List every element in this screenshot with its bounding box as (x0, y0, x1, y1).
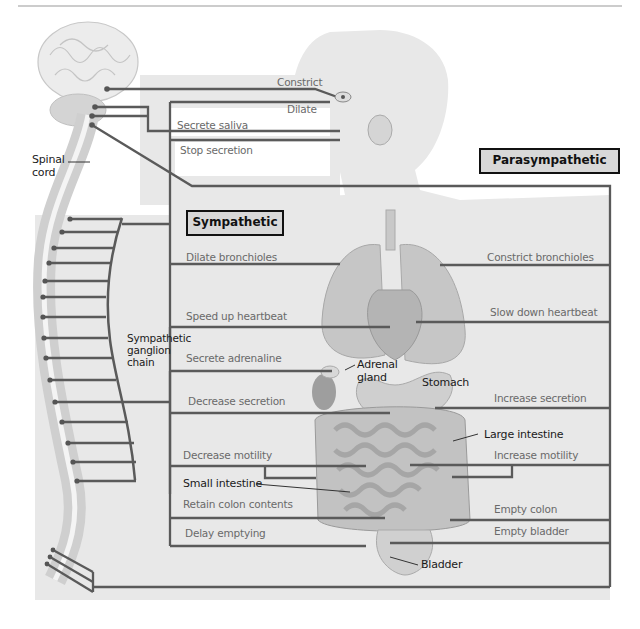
salivary-gland-illustration (368, 115, 392, 145)
effect-secrete-adrenaline: Secrete adrenaline (186, 352, 281, 364)
effect-constrict: Constrict (277, 76, 322, 88)
effect-dilate: Dilate (287, 103, 317, 115)
effect-dilate-bronchioles: Dilate bronchioles (186, 251, 277, 263)
effect-empty-bladder: Empty bladder (494, 525, 569, 537)
effect-increase-secretion: Increase secretion (494, 392, 587, 404)
stomach-label: Stomach (422, 376, 469, 389)
effect-empty-colon: Empty colon (494, 503, 557, 515)
large-intestine-label: Large intestine (484, 428, 563, 441)
effect-delay-emptying: Delay emptying (185, 527, 266, 539)
parasympathetic-title-box: Parasympathetic (479, 148, 620, 174)
kidney (312, 374, 336, 410)
effect-constrict-bronchioles: Constrict bronchioles (487, 251, 594, 263)
effect-decrease-secretion: Decrease secretion (188, 395, 285, 407)
spinal-cord-label: Spinalcord (32, 153, 65, 179)
effect-speed-up-heartbeat: Speed up heartbeat (186, 310, 287, 322)
brain-illustration (38, 22, 138, 126)
effect-slow-down-heartbeat: Slow down heartbeat (490, 306, 597, 318)
trachea (386, 210, 395, 250)
effect-increase-motility: Increase motility (494, 449, 578, 461)
effect-retain-colon-contents: Retain colon contents (183, 498, 293, 510)
bladder-label: Bladder (421, 558, 462, 571)
adrenal-gland-label: Adrenalgland (357, 358, 398, 384)
effect-decrease-motility: Decrease motility (183, 449, 272, 461)
small-intestine-label: Small intestine (183, 477, 262, 490)
ganglion-chain-label: Sympatheticganglionchain (127, 332, 191, 368)
effect-secrete-saliva: Secrete saliva (177, 119, 248, 131)
effect-stop-secretion: Stop secretion (180, 144, 253, 156)
sympathetic-title-box: Sympathetic (186, 210, 284, 236)
